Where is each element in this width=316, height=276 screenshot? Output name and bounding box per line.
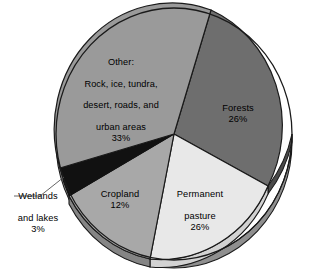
- slice-label-other-line-2: Rock, ice, tundra,: [84, 79, 157, 89]
- slice-label-forests-line-1: Forests: [222, 103, 254, 113]
- slice-label-other: Other: Rock, ice, tundra, desert, roads,…: [56, 46, 186, 155]
- slice-label-permanent-pasture: Permanent pasture 26%: [158, 178, 242, 244]
- slice-label-wetlands-and-lakes: Wetlands and lakes 3%: [2, 180, 74, 246]
- slice-label-pasture-line-2: pasture: [184, 211, 216, 221]
- slice-label-other-line-3: desert, roads, and: [83, 100, 159, 110]
- slice-label-other-line-4: urban areas: [96, 122, 146, 132]
- slice-label-pasture-line-1: Permanent: [177, 189, 223, 199]
- slice-value-cropland: 12%: [84, 200, 156, 211]
- slice-label-forests: Forests 26%: [206, 92, 270, 136]
- slice-label-cropland-line-1: Cropland: [101, 189, 139, 199]
- pie-chart: Other: Rock, ice, tundra, desert, roads,…: [0, 0, 316, 276]
- slice-label-cropland: Cropland 12%: [84, 178, 156, 222]
- slice-value-forests: 26%: [206, 114, 270, 125]
- slice-label-wetlands-line-1: Wetlands: [18, 191, 57, 201]
- slice-value-other: 33%: [56, 133, 186, 144]
- slice-value-permanent-pasture: 26%: [158, 222, 242, 233]
- slice-label-wetlands-line-2: and lakes: [18, 213, 59, 223]
- slice-label-other-line-1: Other:: [108, 57, 134, 67]
- slice-value-wetlands-and-lakes: 3%: [2, 224, 74, 235]
